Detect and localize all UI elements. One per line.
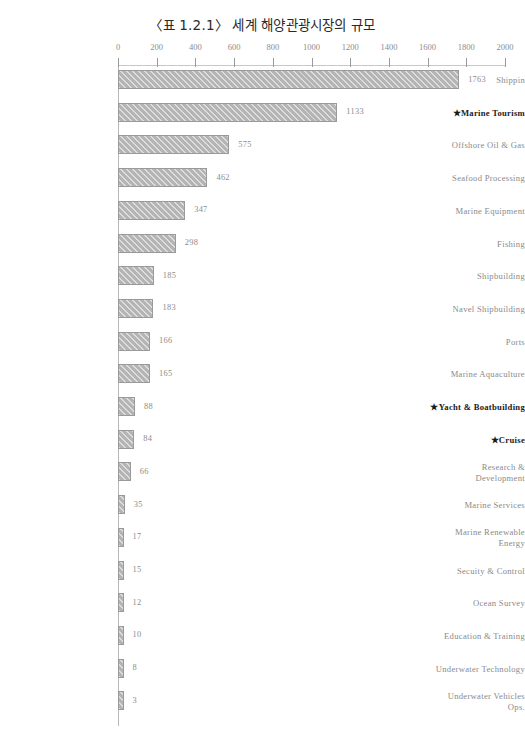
bar (118, 103, 337, 122)
table-row: Education & Training10 (0, 626, 525, 659)
category-label: Secuity & Control (413, 566, 525, 577)
x-tick-label: 200 (150, 42, 163, 52)
x-tick-1200 (350, 58, 351, 67)
bar (118, 626, 124, 645)
category-label-line: Navel Shipbuilding (413, 304, 525, 315)
x-tick-0 (118, 58, 119, 67)
category-label: Underwater Technology (413, 664, 525, 675)
category-label: Marine Equipment (413, 206, 525, 217)
table-row: Marine Equipment347 (0, 201, 525, 234)
bar-value-label: 347 (194, 205, 207, 214)
bar-value-label: 66 (140, 467, 149, 476)
bar-value-label: 1763 (468, 75, 486, 84)
category-label-line: Secuity & Control (413, 566, 525, 577)
x-tick-label: 600 (228, 42, 241, 52)
bar (118, 70, 459, 89)
table-row: Underwater VehiclesOps.3 (0, 691, 525, 724)
category-label-line: Underwater Technology (413, 664, 525, 675)
bar-value-label: 183 (162, 303, 175, 312)
bar (118, 299, 153, 318)
x-tick-1800 (466, 58, 467, 67)
category-label: Ocean Survey (413, 598, 525, 609)
bar (118, 201, 185, 220)
bar (118, 234, 176, 253)
bar (118, 691, 124, 710)
category-label: Research &Development (413, 462, 525, 484)
bar (118, 593, 124, 612)
chart-root: 〈표 1.2.1〉 세계 해양관광시장의 규모 0200400600800100… (0, 0, 525, 750)
category-label-line: Education & Training (413, 631, 525, 642)
category-label-line: Underwater Vehicles (413, 691, 525, 702)
bar-value-label: 88 (144, 402, 153, 411)
bar-value-label: 15 (133, 565, 142, 574)
category-label-line: Shipbuilding (413, 271, 525, 282)
table-row: Marine Services35 (0, 495, 525, 528)
category-label-line: Seafood Processing (413, 173, 525, 184)
table-row: Fishing298 (0, 234, 525, 267)
category-label-line: Marine Services (413, 500, 525, 511)
category-label-line: Ocean Survey (413, 598, 525, 609)
x-tick-400 (195, 58, 196, 67)
table-row: Marine RenewableEnergy17 (0, 528, 525, 561)
bar-value-label: 12 (133, 598, 142, 607)
table-row: Underwater Technology8 (0, 659, 525, 692)
bar (118, 462, 131, 481)
x-tick-label: 1400 (380, 42, 397, 52)
x-tick-label: 1600 (419, 42, 436, 52)
table-row: ★Marine Tourism1133 (0, 103, 525, 136)
bar (118, 561, 124, 580)
table-row: Shipbuilding185 (0, 266, 525, 299)
bar-value-label: 462 (216, 173, 229, 182)
table-row: ★Cruise84 (0, 430, 525, 463)
category-label: Marine Services (413, 500, 525, 511)
table-row: Marine Aquaculture165 (0, 364, 525, 397)
category-label-line: Development (413, 473, 525, 484)
category-label-line: ★Cruise (413, 435, 525, 446)
category-label: Offshore Oil & Gas (413, 140, 525, 151)
bar-value-label: 35 (134, 500, 143, 509)
x-tick-label: 0 (116, 42, 120, 52)
x-tick-label: 1200 (342, 42, 359, 52)
table-row: Shippin1763 (0, 70, 525, 103)
category-label: ★Cruise (413, 435, 525, 446)
category-label: Shipbuilding (413, 271, 525, 282)
bar-value-label: 1133 (346, 107, 364, 116)
bar-value-label: 10 (133, 630, 142, 639)
bar (118, 659, 124, 678)
x-tick-label: 1800 (458, 42, 475, 52)
category-label: Ports (413, 337, 525, 348)
table-row: Ports166 (0, 332, 525, 365)
bar-value-label: 185 (163, 271, 176, 280)
category-label: ★Marine Tourism (413, 108, 525, 119)
table-row: Offshore Oil & Gas575 (0, 135, 525, 168)
table-row: Ocean Survey12 (0, 593, 525, 626)
bar-value-label: 3 (133, 696, 138, 705)
x-tick-label: 800 (266, 42, 279, 52)
table-row: Seafood Processing462 (0, 168, 525, 201)
bar-value-label: 298 (185, 238, 198, 247)
category-label-line: Marine Equipment (413, 206, 525, 217)
bar (118, 495, 125, 514)
category-label: Fishing (413, 239, 525, 250)
category-label: Navel Shipbuilding (413, 304, 525, 315)
bar (118, 135, 229, 154)
bar (118, 397, 135, 416)
table-row: Navel Shipbuilding183 (0, 299, 525, 332)
bar (118, 430, 134, 449)
x-tick-1400 (389, 58, 390, 67)
bar-value-label: 165 (159, 369, 172, 378)
category-label: Seafood Processing (413, 173, 525, 184)
category-label-line: ★Yacht & Boatbuilding (413, 402, 525, 413)
category-label: ★Yacht & Boatbuilding (413, 402, 525, 413)
category-label-line: ★Marine Tourism (413, 108, 525, 119)
category-label-line: Offshore Oil & Gas (413, 140, 525, 151)
category-label-line: Fishing (413, 239, 525, 250)
bar-value-label: 84 (143, 434, 152, 443)
bar (118, 168, 207, 187)
x-tick-2000 (505, 58, 506, 67)
x-tick-200 (157, 58, 158, 67)
category-label: Underwater VehiclesOps. (413, 691, 525, 713)
table-row: Secuity & Control15 (0, 561, 525, 594)
bar-value-label: 17 (133, 532, 142, 541)
table-row: Research &Development66 (0, 462, 525, 495)
